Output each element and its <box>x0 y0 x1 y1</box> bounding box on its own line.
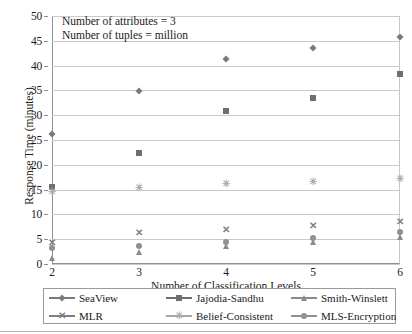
x-tick-label: 5 <box>310 266 316 278</box>
legend-label: MLS-Encryption <box>321 310 396 322</box>
legend-label: Jajodia-Sandhu <box>196 292 264 304</box>
legend-item-mls-encryption[interactable]: MLS-Encryption <box>286 310 397 322</box>
y-tick-mark <box>44 165 48 166</box>
gridline <box>52 264 400 265</box>
y-tick-label: 5 <box>36 233 42 245</box>
legend-label: MLR <box>79 310 103 322</box>
legend-label: Smith-Winslett <box>321 292 388 304</box>
data-point: ✕ <box>135 228 143 238</box>
y-tick-mark <box>44 66 48 67</box>
legend-label: Belief-Consistent <box>196 310 273 322</box>
chart-figure: Response Time (minutes) 0510152025303540… <box>0 0 412 334</box>
y-tick-mark <box>44 214 48 215</box>
gridline <box>52 140 400 141</box>
chart-legend: SeaViewJajodia-SandhuSmith-Winslett✕MLR✳… <box>43 288 396 324</box>
y-tick-label: 50 <box>31 10 42 22</box>
plot-area: ✕✕✕✕✕✳✳✳✳✳ <box>52 16 400 264</box>
page-rule <box>0 331 412 332</box>
data-point: ✳ <box>135 183 143 193</box>
y-tick-label: 25 <box>31 134 42 146</box>
plot-annotation: Number of attributes = 3 Number of tuple… <box>62 14 188 42</box>
y-tick-label: 10 <box>31 208 42 220</box>
gridline <box>52 66 400 67</box>
legend-item-mlr[interactable]: ✕MLR <box>44 310 161 322</box>
legend-swatch-icon <box>291 293 317 303</box>
data-point <box>49 245 55 251</box>
y-tick-mark <box>44 16 48 17</box>
x-tick-label: 4 <box>223 266 229 278</box>
x-tick-label: 6 <box>397 266 403 278</box>
annotation-line-1: Number of attributes = 3 <box>62 14 188 28</box>
gridline <box>52 190 400 191</box>
gridline <box>52 214 400 215</box>
data-point: ✕ <box>309 221 317 231</box>
data-point <box>49 255 55 261</box>
legend-item-smith-winslett[interactable]: Smith-Winslett <box>286 292 397 304</box>
data-point: ✳ <box>222 179 230 189</box>
data-point: ✳ <box>48 187 56 197</box>
data-point <box>397 229 403 235</box>
y-tick-mark <box>44 140 48 141</box>
y-tick-label: 40 <box>31 60 42 72</box>
data-point <box>310 95 316 101</box>
data-point: ✳ <box>396 174 404 184</box>
legend-swatch-icon <box>49 293 75 303</box>
annotation-line-2: Number of tuples = million <box>62 28 188 42</box>
data-point <box>310 235 316 241</box>
legend-swatch-icon: ✳ <box>166 311 192 321</box>
legend-swatch-icon: ✕ <box>49 311 75 321</box>
data-point: ✕ <box>396 217 404 227</box>
legend-item-seaview[interactable]: SeaView <box>44 292 161 304</box>
y-tick-label: 30 <box>31 109 42 121</box>
legend-item-belief-consistent[interactable]: ✳Belief-Consistent <box>161 310 286 322</box>
y-tick-mark <box>44 90 48 91</box>
data-point <box>136 150 142 156</box>
y-tick-label: 35 <box>31 84 42 96</box>
gridline <box>52 115 400 116</box>
gridline <box>52 165 400 166</box>
data-point: ✳ <box>309 177 317 187</box>
data-point: ✕ <box>222 225 230 235</box>
x-tick-label: 2 <box>49 266 55 278</box>
x-tick-label: 3 <box>136 266 142 278</box>
data-point <box>223 108 229 114</box>
data-point <box>136 249 142 255</box>
legend-swatch-icon <box>291 311 317 321</box>
y-tick-label: 0 <box>36 258 42 270</box>
data-point <box>136 243 142 249</box>
y-tick-label: 20 <box>31 159 42 171</box>
legend-item-jajodia-sandhu[interactable]: Jajodia-Sandhu <box>161 292 286 304</box>
y-tick-label: 45 <box>31 35 42 47</box>
y-axis: 05101520253035404550 <box>0 16 48 264</box>
y-tick-mark <box>44 41 48 42</box>
y-tick-label: 15 <box>31 184 42 196</box>
data-point <box>223 239 229 245</box>
gridline <box>52 90 400 91</box>
legend-label: SeaView <box>79 292 118 304</box>
y-tick-mark <box>44 264 48 265</box>
y-tick-mark <box>44 115 48 116</box>
data-point <box>397 71 403 77</box>
legend-swatch-icon <box>166 293 192 303</box>
